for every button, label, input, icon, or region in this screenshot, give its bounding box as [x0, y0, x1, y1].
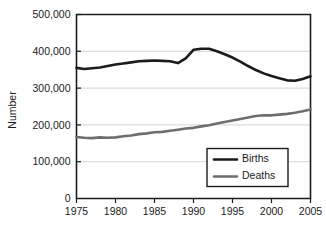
- births-deaths-line-chart: 0100,000200,000300,000400,000500,000 197…: [0, 0, 326, 227]
- y-tick-label: 100,000: [33, 155, 71, 167]
- x-tick-label: 1985: [143, 205, 167, 217]
- y-tick-label: 500,000: [33, 8, 71, 20]
- chart-canvas: 0100,000200,000300,000400,000500,000 197…: [0, 0, 326, 227]
- y-axis-title-text: Number: [6, 91, 18, 129]
- x-tick-label: 2005: [299, 205, 323, 217]
- legend-label-deaths: Deaths: [242, 169, 275, 181]
- y-tick-label: 0: [65, 192, 71, 204]
- x-tick-label: 1975: [65, 205, 89, 217]
- x-tick-label: 1980: [104, 205, 128, 217]
- chart-legend: BirthsDeaths: [207, 149, 288, 187]
- x-tick-label: 1995: [221, 205, 245, 217]
- series-line-births: [77, 49, 311, 81]
- x-tick-labels: 1975198019851990199520002005: [65, 205, 323, 217]
- y-tick-label: 400,000: [33, 45, 71, 57]
- y-tick-label: 200,000: [33, 119, 71, 131]
- series-line-deaths: [77, 109, 311, 138]
- y-axis-title: Number: [6, 91, 18, 129]
- gridlines: [77, 15, 311, 162]
- x-tick-label: 2000: [260, 205, 284, 217]
- y-tick-labels: 0100,000200,000300,000400,000500,000: [33, 8, 71, 204]
- y-tick-label: 300,000: [33, 82, 71, 94]
- x-tick-label: 1990: [182, 205, 206, 217]
- legend-label-births: Births: [242, 152, 269, 164]
